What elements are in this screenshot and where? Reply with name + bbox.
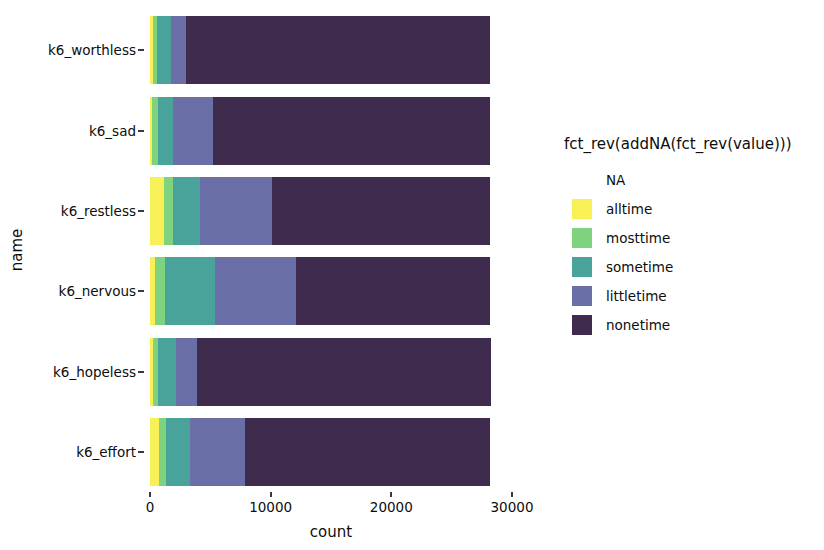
bar-segment-alltime bbox=[150, 177, 164, 245]
bar-row bbox=[150, 16, 512, 84]
legend-key-swatch bbox=[572, 199, 592, 219]
legend-item-label: nonetime bbox=[606, 317, 670, 333]
legend-item-sometime: sometime bbox=[562, 252, 820, 281]
x-axis-tick-label: 30000 bbox=[491, 499, 534, 515]
y-axis-tick-mark bbox=[138, 371, 144, 373]
x-axis-tick-mark bbox=[270, 492, 272, 497]
x-axis: 0100002000030000 bbox=[150, 492, 512, 522]
bar-segment-sometime bbox=[165, 257, 215, 325]
legend-item-nonetime: nonetime bbox=[562, 310, 820, 339]
bar-segment-littletime bbox=[190, 418, 245, 486]
legend-key-swatch bbox=[572, 257, 592, 277]
bar-segment-nonetime bbox=[245, 418, 490, 486]
bar-segment-sometime bbox=[158, 97, 173, 165]
bar-segment-nonetime bbox=[296, 257, 490, 325]
y-axis-tick-labels: k6_worthlessk6_sadk6_restlessk6_nervousk… bbox=[18, 10, 146, 492]
bar-segment-sometime bbox=[166, 418, 190, 486]
bar-segment-nonetime bbox=[197, 338, 491, 406]
legend-item-label: NA bbox=[606, 172, 625, 188]
bar-segment-nonetime bbox=[213, 97, 491, 165]
bar-row bbox=[150, 338, 512, 406]
x-axis-title: count bbox=[150, 523, 512, 541]
y-axis-tick-label: k6_worthless bbox=[48, 42, 136, 58]
y-axis-tick-mark bbox=[138, 210, 144, 212]
bar-segment-littletime bbox=[171, 16, 186, 84]
bar-segment-mosttime bbox=[155, 257, 165, 325]
bar-row bbox=[150, 177, 512, 245]
stacked-bar-chart-figure: name k6_worthlessk6_sadk6_restlessk6_ner… bbox=[0, 0, 824, 550]
bar-segment-sometime bbox=[157, 16, 170, 84]
legend: fct_rev(addNA(fct_rev(value))) NAalltime… bbox=[562, 135, 820, 339]
legend-title: fct_rev(addNA(fct_rev(value))) bbox=[564, 135, 820, 153]
bar-segment-sometime bbox=[173, 177, 200, 245]
y-axis-tick-label: k6_hopeless bbox=[53, 364, 136, 380]
legend-item-label: mosttime bbox=[606, 230, 670, 246]
bar-segment-nonetime bbox=[272, 177, 490, 245]
legend-key-swatch bbox=[572, 228, 592, 248]
legend-item-littletime: littletime bbox=[562, 281, 820, 310]
y-axis-tick-label: k6_sad bbox=[89, 123, 136, 139]
bar-segment-littletime bbox=[176, 338, 197, 406]
bar-segment-alltime bbox=[150, 418, 159, 486]
x-axis-tick-label: 20000 bbox=[370, 499, 413, 515]
legend-item-label: sometime bbox=[606, 259, 673, 275]
bar-segment-littletime bbox=[200, 177, 272, 245]
x-axis-tick-mark bbox=[390, 492, 392, 497]
y-axis-tick-mark bbox=[138, 49, 144, 51]
y-axis-tick-mark bbox=[138, 451, 144, 453]
x-axis-tick-label: 0 bbox=[146, 499, 155, 515]
legend-items: NAalltimemosttimesometimelittletimenonet… bbox=[562, 165, 820, 339]
bar-row bbox=[150, 418, 512, 486]
bar-segment-nonetime bbox=[186, 16, 491, 84]
y-axis-tick-mark bbox=[138, 290, 144, 292]
y-axis-tick-mark bbox=[138, 130, 144, 132]
x-axis-tick-mark bbox=[149, 492, 151, 497]
legend-key-swatch bbox=[572, 170, 592, 190]
y-axis-tick-label: k6_effort bbox=[76, 444, 136, 460]
bar-segment-littletime bbox=[215, 257, 296, 325]
bar-segment-mosttime bbox=[159, 418, 166, 486]
legend-key-swatch bbox=[572, 286, 592, 306]
bar-row bbox=[150, 97, 512, 165]
legend-key-swatch bbox=[572, 315, 592, 335]
legend-item-mosttime: mosttime bbox=[562, 223, 820, 252]
y-axis-tick-label: k6_nervous bbox=[59, 283, 136, 299]
y-axis-tick-label: k6_restless bbox=[61, 203, 136, 219]
legend-item-alltime: alltime bbox=[562, 194, 820, 223]
x-axis-tick-label: 10000 bbox=[249, 499, 292, 515]
legend-item-label: alltime bbox=[606, 201, 652, 217]
legend-item-NA: NA bbox=[562, 165, 820, 194]
plot-panel bbox=[150, 10, 512, 492]
bar-segment-mosttime bbox=[164, 177, 173, 245]
bar-row bbox=[150, 257, 512, 325]
bar-segment-littletime bbox=[173, 97, 213, 165]
x-axis-tick-mark bbox=[511, 492, 513, 497]
legend-item-label: littletime bbox=[606, 288, 667, 304]
bar-segment-sometime bbox=[158, 338, 176, 406]
